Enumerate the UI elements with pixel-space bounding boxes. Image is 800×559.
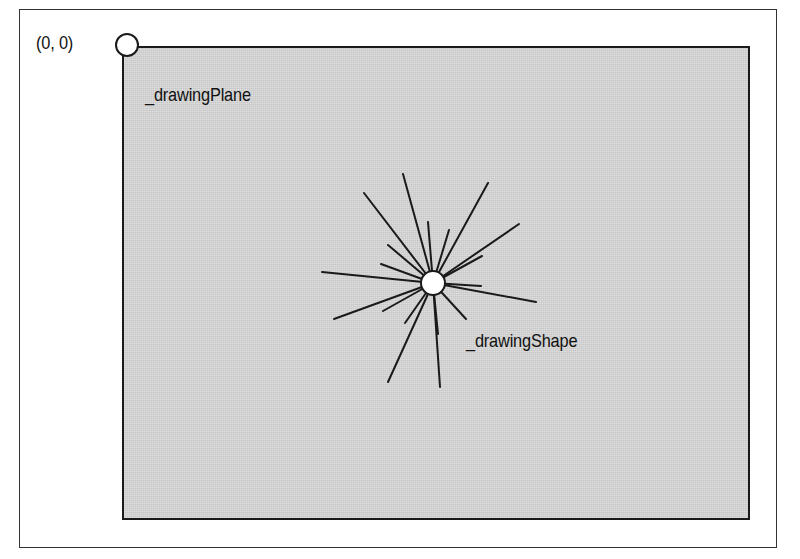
- drawing-shape-label: _drawingShape: [466, 330, 577, 352]
- origin-label: (0, 0): [36, 32, 73, 54]
- drawing-plane-label: _drawingPlane: [145, 84, 251, 106]
- drawing-plane: [122, 46, 750, 520]
